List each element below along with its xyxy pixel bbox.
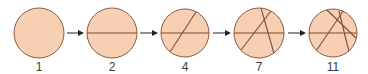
stage-label: 4: [170, 60, 200, 74]
circle-stage-7: [234, 8, 284, 58]
arrow-right-icon: [213, 30, 231, 36]
arrow-right-icon: [140, 30, 158, 36]
circle-stage-1: [14, 8, 64, 58]
stage-label: 11: [318, 60, 348, 74]
stage-label: 7: [244, 60, 274, 74]
arrow-right-icon: [288, 30, 306, 36]
stage-label: 1: [24, 60, 54, 74]
arrow-right-icon: [67, 30, 84, 36]
circle-stage-2: [87, 8, 137, 58]
circle-stage-11: [309, 9, 357, 57]
stage-label: 2: [97, 60, 127, 74]
circle-stage-4: [161, 9, 209, 57]
